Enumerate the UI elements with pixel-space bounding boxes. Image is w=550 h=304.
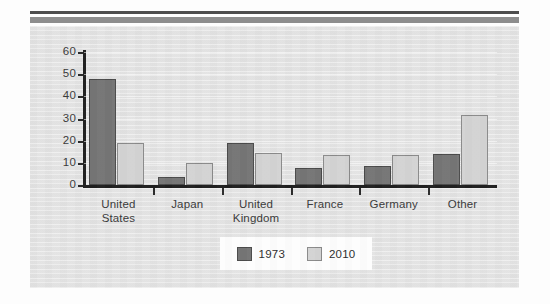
x-axis-tick <box>222 188 224 195</box>
gridline <box>84 119 497 120</box>
plot-area <box>84 52 497 185</box>
bar-1973-japan <box>158 177 185 185</box>
legend-entry-1973: 1973 <box>237 247 285 261</box>
bar-1973-united-kingdom <box>227 143 254 185</box>
bar-2010-japan <box>186 163 213 185</box>
bar-2010-united-states <box>117 143 144 185</box>
header-rule-thin <box>30 11 519 14</box>
chart-panel: 0102030405060 UnitedStatesJapanUnitedKin… <box>30 26 519 288</box>
legend-swatch-1973 <box>237 247 252 261</box>
legend-label-1973: 1973 <box>259 248 285 260</box>
x-axis-label-other: Other <box>422 198 503 212</box>
y-axis-tick-label: 40 <box>52 89 76 101</box>
scanned-page: 0102030405060 UnitedStatesJapanUnitedKin… <box>0 0 550 304</box>
legend-swatch-2010 <box>307 247 322 261</box>
bar-1973-other <box>433 154 460 185</box>
legend-label-2010: 2010 <box>329 248 355 260</box>
y-axis-tick-label: 10 <box>52 156 76 168</box>
y-axis-tick-label: 0 <box>52 178 76 190</box>
x-axis-tick <box>153 188 155 195</box>
bar-1973-france <box>295 168 322 185</box>
gridline <box>84 141 497 142</box>
bar-2010-other <box>461 115 488 185</box>
bar-2010-germany <box>392 155 419 185</box>
y-axis-labels: 0102030405060 <box>42 26 76 226</box>
bar-2010-united-kingdom <box>255 153 282 185</box>
x-axis-tick <box>428 188 430 195</box>
y-axis-tick-label: 30 <box>52 112 76 124</box>
gridline <box>84 52 497 53</box>
y-axis-tick-label: 20 <box>52 134 76 146</box>
bar-1973-germany <box>364 166 391 185</box>
y-axis-tick-label: 50 <box>52 67 76 79</box>
chart-legend: 1973 2010 <box>220 237 372 270</box>
bar-2010-france <box>323 155 350 185</box>
x-axis-tick <box>291 188 293 195</box>
legend-entry-2010: 2010 <box>307 247 355 261</box>
header-rule-thick <box>30 17 519 23</box>
bar-1973-united-states <box>89 79 116 185</box>
y-axis-tick-label: 60 <box>52 45 76 57</box>
gridline <box>84 96 497 97</box>
x-axis-tick <box>359 188 361 195</box>
gridline <box>84 74 497 75</box>
